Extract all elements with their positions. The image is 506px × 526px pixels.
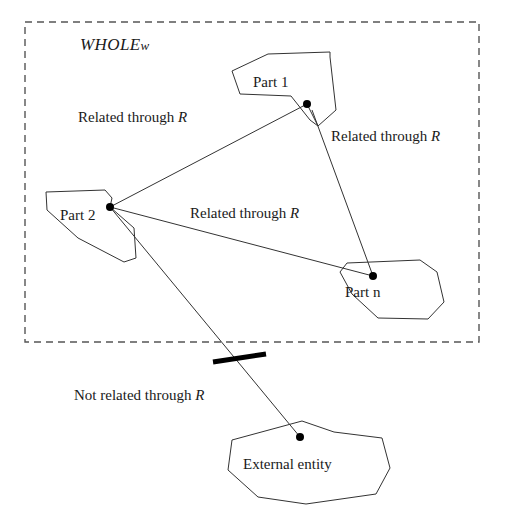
label-edge-part1-partn: Related through R [331,129,440,144]
label-edge-2-text: Related through [331,128,431,144]
label-edge-1-text: Related through [78,109,178,125]
dot-part-n [369,272,377,280]
label-part-1-text: Part 1 [253,74,288,90]
negation-strike-icon [213,354,266,362]
label-edge-4-var: R [195,387,204,403]
whole-title-label: WHOLEw [80,36,150,53]
label-part-2-text: Part 2 [60,207,95,223]
whole-title-var: w [141,38,150,53]
label-edge-3-var: R [290,205,299,221]
label-edge-part2-part1: Related through R [78,110,187,125]
label-external-entity: External entity [243,457,332,472]
label-external-entity-text: External entity [243,456,332,472]
dot-part-2 [106,203,114,211]
label-edge-1-var: R [178,109,187,125]
label-part-n: Part n [345,285,380,300]
label-edge-part2-external: Not related through R [74,388,204,403]
dot-external-entity [296,433,304,441]
label-part-n-text: Part n [345,284,380,300]
label-part-1: Part 1 [253,75,288,90]
whole-boundary-box [25,22,479,342]
diagram-canvas: WHOLEw Part 1 Part 2 Part n External ent… [0,0,506,526]
dot-part-1 [303,100,311,108]
label-edge-4-text: Not related through [74,387,195,403]
label-edge-part2-partn: Related through R [190,206,299,221]
label-edge-3-text: Related through [190,205,290,221]
whole-title-main: WHOLE [80,35,141,54]
label-edge-2-var: R [431,128,440,144]
label-part-2: Part 2 [60,208,95,223]
